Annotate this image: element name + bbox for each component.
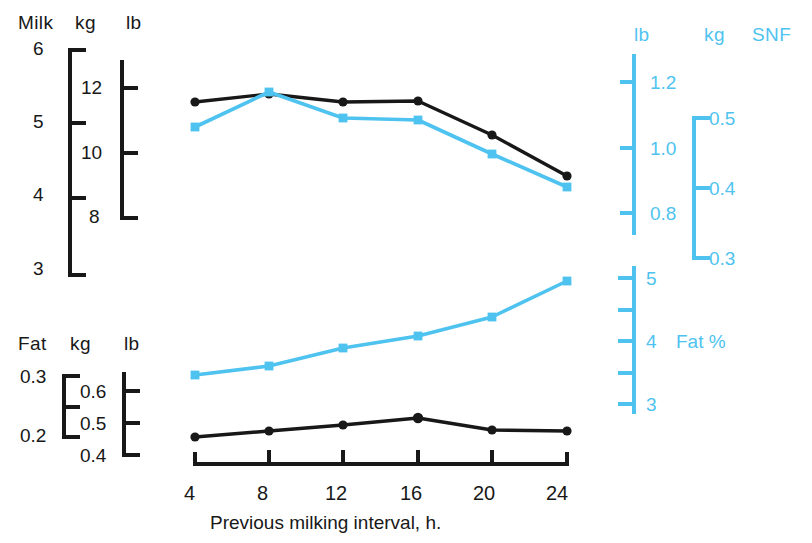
milk-kg-axis <box>70 50 84 275</box>
snf-yield-series-line <box>195 92 567 187</box>
fat-percent-series-line <box>195 281 567 375</box>
chart-svg <box>0 0 812 543</box>
snf-lb-axis <box>622 56 634 233</box>
fat-yield-series-line <box>195 418 567 437</box>
fat-lb-axis <box>124 374 138 455</box>
chart-figure: Milk kg lb 6 5 4 3 12 10 8 Fat kg lb 0.3… <box>0 0 812 543</box>
fat-kg-axis <box>64 376 78 437</box>
fat-percent-series-points <box>191 277 572 380</box>
snf-kg-axis <box>694 118 708 258</box>
milk-lb-axis <box>122 62 136 218</box>
fat-percent-axis <box>620 268 634 412</box>
fat-yield-series-points <box>190 413 571 442</box>
x-axis <box>195 452 567 464</box>
